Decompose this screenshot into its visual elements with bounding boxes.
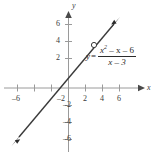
- x-tick-label-4: 4: [100, 95, 104, 103]
- equation-numerator: x2 – x – 6: [98, 46, 136, 56]
- equation-fraction: x2 – x – 6 x – 3: [98, 46, 136, 67]
- y-tick-label-6: 6: [56, 20, 60, 28]
- equation-label: y = x2 – x – 6 x – 3: [86, 46, 136, 67]
- x-tick-label-2: 2: [83, 95, 87, 103]
- equation-denominator: x – 3: [106, 57, 128, 67]
- numerator-rest: – x – 6: [109, 45, 134, 55]
- function-line: [12, 17, 121, 146]
- y-tick-label-neg6: –6: [63, 135, 71, 143]
- x-axis: [4, 85, 145, 92]
- y-axis-label: y: [72, 2, 76, 10]
- y-tick-label-neg4: –4: [63, 118, 71, 126]
- graph-figure: x y 6 4 2 –2 –4 –6 –6 –2 2 4 6 y = x2 – …: [0, 0, 160, 158]
- y-tick-label-2: 2: [56, 54, 60, 62]
- x-axis-label: x: [147, 84, 151, 92]
- coordinate-plane: [0, 0, 160, 158]
- equation-equals: =: [91, 52, 96, 61]
- equation-lhs: y: [86, 52, 90, 61]
- y-tick-label-4: 4: [56, 37, 60, 45]
- x-tick-label-6: 6: [117, 95, 121, 103]
- x-tick-label-neg6: –6: [12, 95, 20, 103]
- x-tick-label-neg2: –2: [57, 95, 65, 103]
- numerator-exponent: 2: [104, 44, 107, 50]
